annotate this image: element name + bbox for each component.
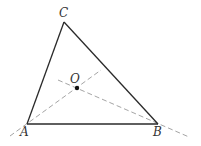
label-o: O	[70, 72, 80, 86]
label-b: B	[152, 125, 162, 139]
point-o-dot	[75, 86, 79, 90]
label-c: C	[59, 6, 68, 20]
triangle-diagram: C A B O	[0, 0, 201, 146]
label-a: A	[19, 125, 29, 139]
side-ac	[27, 22, 64, 124]
